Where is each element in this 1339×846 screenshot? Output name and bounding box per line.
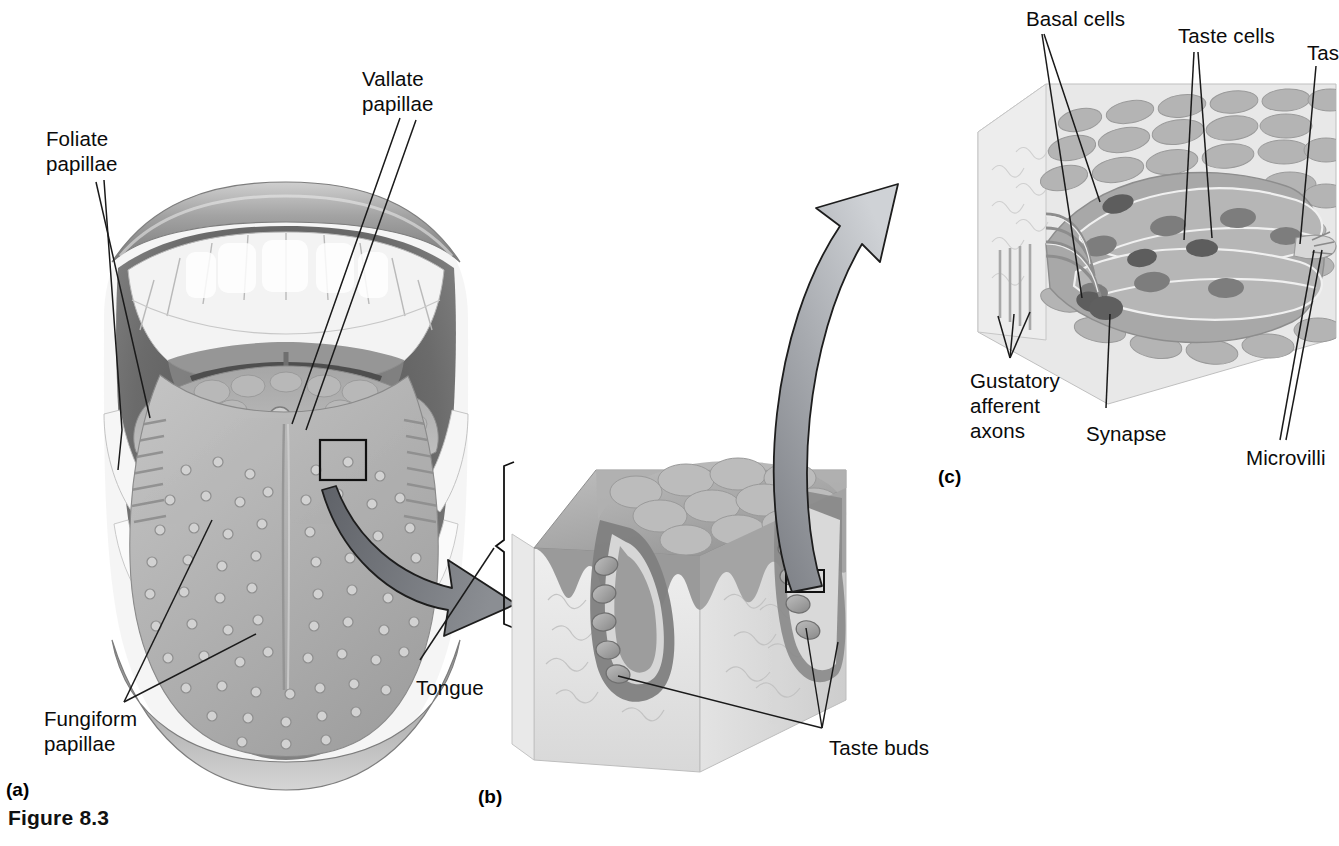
label-basal-cells: Basal cells bbox=[1026, 6, 1125, 31]
panel-a-mouth-illustration bbox=[104, 182, 468, 790]
label-fungiform-papillae: Fungiform papillae bbox=[44, 706, 137, 756]
label-synapse: Synapse bbox=[1086, 421, 1166, 446]
label-microvilli: Microvilli bbox=[1246, 445, 1326, 470]
panel-label-b: (b) bbox=[478, 786, 502, 808]
label-taste-buds: Taste buds bbox=[829, 735, 929, 760]
label-taste-pore-clipped: Tas bbox=[1307, 40, 1339, 65]
synapse-shape bbox=[1089, 296, 1123, 320]
label-taste-cells: Taste cells bbox=[1178, 23, 1275, 48]
panel-c-taste-bud-detail bbox=[978, 84, 1339, 404]
label-tongue: Tongue bbox=[416, 675, 484, 700]
label-foliate-papillae: Foliate papillae bbox=[46, 126, 117, 176]
label-vallate-papillae: Vallate papillae bbox=[362, 66, 433, 116]
label-gustatory-afferent-axons: Gustatory afferent axons bbox=[970, 368, 1060, 443]
figure-number: Figure 8.3 bbox=[8, 806, 109, 830]
panel-label-a: (a) bbox=[6, 779, 29, 801]
panel-label-c: (c) bbox=[938, 466, 961, 488]
